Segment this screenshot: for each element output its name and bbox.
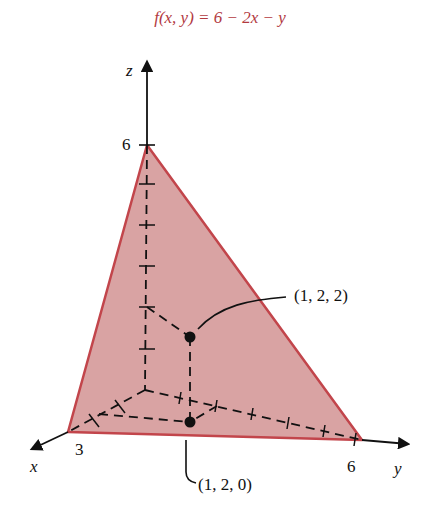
x-tick-label: 3 — [75, 441, 84, 458]
point-label-1-2-0: (1, 2, 0) — [198, 476, 252, 493]
z-tick-label: 6 — [122, 136, 131, 153]
diagram-svg — [0, 0, 440, 511]
y-axis-label: y — [394, 460, 402, 477]
point-label-1-2-2: (1, 2, 2) — [294, 287, 348, 304]
z-axis-label: z — [126, 62, 133, 79]
point-1-2-0 — [185, 417, 196, 428]
y-axis — [362, 440, 408, 444]
leader-1-2-0 — [186, 440, 196, 483]
point-1-2-2 — [185, 332, 196, 343]
y-tick-label: 6 — [347, 458, 356, 475]
x-axis — [32, 432, 68, 449]
x-axis-label: x — [30, 458, 38, 475]
plane-diagram: f(x, y) = 6 − 2x − y — [0, 0, 440, 511]
